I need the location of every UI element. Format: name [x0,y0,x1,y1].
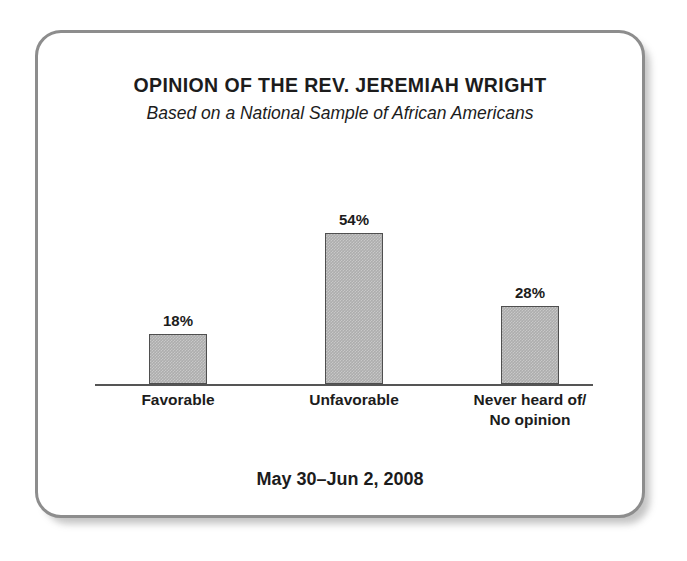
chart-subtitle: Based on a National Sample of African Am… [38,103,642,123]
category-label-unfavorable: Unfavorable [279,390,429,410]
bar-group-unfavorable: 54% [325,233,383,384]
bar-group-never-heard: 28% [501,306,559,384]
bar-series: 18% 54% 28% [95,188,593,384]
bar-group-favorable: 18% [149,334,207,384]
category-label-never-heard: Never heard of/ No opinion [455,390,605,431]
bar-rect [325,233,383,384]
chart-card: OPINION OF THE REV. JEREMIAH WRIGHT Base… [35,30,645,518]
chart-title: OPINION OF THE REV. JEREMIAH WRIGHT [38,75,642,96]
screenshot-root: OPINION OF THE REV. JEREMIAH WRIGHT Base… [0,0,687,561]
survey-date-caption: May 30–Jun 2, 2008 [38,470,642,490]
plot-area: 18% 54% 28% [95,188,593,386]
category-axis-labels: Favorable Unfavorable Never heard of/ No… [95,390,593,450]
category-label-favorable: Favorable [103,390,253,410]
chart-heading: OPINION OF THE REV. JEREMIAH WRIGHT Base… [38,75,642,124]
bar-rect [149,334,207,384]
x-axis-baseline [95,384,593,386]
bar-value-label: 28% [501,285,559,300]
bar-value-label: 18% [149,313,207,328]
bar-value-label: 54% [325,212,383,227]
bar-rect [501,306,559,384]
